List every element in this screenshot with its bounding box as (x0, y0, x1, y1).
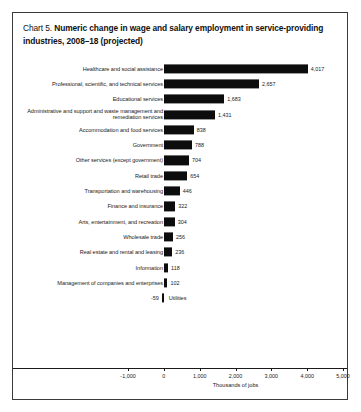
chart-title-text: Numeric change in wage and salary employ… (23, 23, 323, 46)
bar-row: Wholesale trade256 (13, 229, 347, 244)
x-axis-tick-label: 0 (162, 373, 165, 379)
bar-row: Finance and insurance322 (13, 199, 347, 214)
category-label: Other services (except government) (15, 157, 163, 164)
category-label: Healthcare and social assistance (15, 65, 163, 72)
bar (164, 248, 172, 257)
category-label: Real estate and rental and leasing (15, 249, 163, 256)
x-axis-tick-label: 5,000 (336, 373, 350, 379)
bar-row: Educational services1,683 (13, 92, 347, 107)
value-label: 704 (192, 157, 201, 163)
value-label: -59 (144, 295, 159, 301)
bar (164, 217, 175, 226)
bar (164, 64, 308, 73)
x-axis-tick (128, 368, 129, 371)
x-axis-tick-label: 1,000 (193, 373, 207, 379)
bar-row: Retail trade654 (13, 168, 347, 183)
bar (164, 202, 176, 211)
bar-row: Real estate and rental and leasing236 (13, 245, 347, 260)
category-label: Professional, scientific, and technical … (15, 81, 163, 88)
plot-area: Healthcare and social assistance4,017Pro… (13, 59, 347, 399)
category-label: Accommodation and food services (15, 127, 163, 134)
bar-row: Utilities-59 (13, 291, 347, 306)
category-label: Retail trade (15, 172, 163, 179)
chart-title-number: Chart 5. (23, 23, 52, 33)
category-label: Arts, entertainment, and recreation (15, 218, 163, 225)
x-axis-line (13, 368, 347, 369)
x-axis-tick (307, 368, 308, 371)
category-label: Transportation and warehousing (15, 188, 163, 195)
bar-row: Administrative and support and waste man… (13, 107, 347, 122)
x-axis-tick (164, 368, 165, 371)
value-label: 838 (197, 127, 206, 133)
x-axis-tick (271, 368, 272, 371)
bar-row: Government788 (13, 138, 347, 153)
bar-row: Healthcare and social assistance4,017 (13, 61, 347, 76)
value-label: 4,017 (311, 66, 325, 72)
bar (164, 110, 215, 119)
bar (164, 186, 180, 195)
value-label: 102 (170, 280, 179, 286)
x-axis: -1,00001,0002,0003,0004,0005,000Thousand… (13, 368, 347, 398)
bar (164, 79, 259, 88)
bar-row: Arts, entertainment, and recreation304 (13, 214, 347, 229)
category-label: Management of companies and enterprises (15, 280, 163, 287)
x-axis-tick-label: 3,000 (265, 373, 279, 379)
x-axis-tick-label: -1,000 (120, 373, 135, 379)
x-axis-tick (236, 368, 237, 371)
category-label: Utilities (169, 295, 249, 302)
bar (164, 278, 168, 287)
bar-row: Other services (except government)704 (13, 153, 347, 168)
bar-row: Accommodation and food services838 (13, 122, 347, 137)
x-axis-title: Thousands of jobs (213, 382, 259, 388)
value-label: 304 (178, 219, 187, 225)
value-label: 1,431 (218, 112, 232, 118)
bar (164, 171, 187, 180)
bar (164, 95, 224, 104)
category-label: Educational services (15, 96, 163, 103)
value-label: 1,683 (227, 96, 241, 102)
bar (164, 125, 194, 134)
bar-row: Professional, scientific, and technical … (13, 76, 347, 91)
value-label: 2,657 (262, 81, 276, 87)
bar (164, 263, 168, 272)
chart-title: Chart 5. Numeric change in wage and sala… (23, 22, 333, 47)
category-label: Information (15, 264, 163, 271)
bar-row: Management of companies and enterprises1… (13, 275, 347, 290)
bar (162, 294, 164, 303)
value-label: 256 (176, 234, 185, 240)
value-label: 654 (190, 173, 199, 179)
x-axis-tick (200, 368, 201, 371)
bar (164, 141, 192, 150)
x-axis-tick-label: 4,000 (300, 373, 314, 379)
value-label: 236 (175, 249, 184, 255)
value-label: 446 (183, 188, 192, 194)
x-axis-tick (343, 368, 344, 371)
bar-row: Transportation and warehousing446 (13, 183, 347, 198)
category-label: Administrative and support and waste man… (15, 108, 163, 121)
bar (164, 232, 173, 241)
bar (164, 156, 189, 165)
x-axis-tick-label: 2,000 (229, 373, 243, 379)
category-label: Finance and insurance (15, 203, 163, 210)
value-label: 118 (171, 265, 180, 271)
category-label: Wholesale trade (15, 234, 163, 241)
value-label: 788 (195, 142, 204, 148)
chart-panel: Chart 5. Numeric change in wage and sala… (12, 12, 348, 400)
bar-row: Information118 (13, 260, 347, 275)
value-label: 322 (178, 203, 187, 209)
category-label: Government (15, 142, 163, 149)
